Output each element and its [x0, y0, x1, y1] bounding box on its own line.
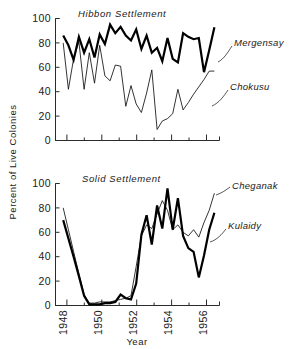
- x-tick-labels: 1948 1950 1952 1954 1956: [57, 310, 209, 335]
- top-ytick-20: 20: [39, 110, 51, 122]
- series-label-mergensay: Mergensay: [234, 37, 285, 48]
- top-ytick-0: 0: [45, 134, 51, 146]
- xtick-1954: 1954: [162, 310, 174, 335]
- series-line-cheganak: [63, 193, 214, 303]
- series-line-kulaidy: [63, 188, 214, 304]
- top-panel-title: Hibbon Settlement: [78, 8, 166, 19]
- bottom-panel-y-axis: [56, 184, 60, 306]
- bottom-ytick-20: 20: [39, 275, 51, 287]
- bottom-ytick-100: 100: [32, 177, 51, 189]
- figure-container: 0 20 40 60 80 100 Hibbon Settlement Merg…: [0, 0, 289, 349]
- bottom-panel-x-axis: [56, 302, 220, 306]
- cheganak-leader-line: [216, 187, 230, 195]
- top-panel-x-axis: [56, 137, 220, 141]
- series-label-kulaidy: Kulaidy: [228, 220, 262, 231]
- bottom-panel: 0 20 40 60 80 100 Solid Settlement Chega…: [32, 173, 278, 347]
- bottom-panel-y-ticks: [56, 184, 60, 306]
- chokusu-leader-line: [212, 90, 228, 106]
- series-label-cheganak: Cheganak: [232, 180, 279, 191]
- top-panel: 0 20 40 60 80 100 Hibbon Settlement Merg…: [32, 8, 284, 146]
- series-label-chokusu: Chokusu: [230, 81, 270, 92]
- x-axis-title: Year: [126, 336, 147, 347]
- series-line-chokusu: [63, 42, 214, 130]
- colony-survival-figure: 0 20 40 60 80 100 Hibbon Settlement Merg…: [0, 0, 289, 349]
- top-ytick-60: 60: [39, 61, 51, 73]
- top-panel-y-axis: [56, 19, 60, 141]
- kulaidy-leader-line: [210, 229, 226, 242]
- series-line-mergensay: [63, 25, 214, 73]
- top-ytick-40: 40: [39, 85, 51, 97]
- xtick-1948: 1948: [57, 310, 69, 335]
- bottom-ytick-60: 60: [39, 226, 51, 238]
- xtick-1952: 1952: [127, 310, 139, 335]
- bottom-panel-y-tick-labels: 0 20 40 60 80 100: [32, 177, 51, 311]
- xtick-1950: 1950: [92, 310, 104, 335]
- top-panel-x-ticks: [67, 135, 207, 141]
- top-ytick-100: 100: [32, 12, 51, 24]
- bottom-panel-title: Solid Settlement: [82, 173, 161, 184]
- bottom-ytick-40: 40: [39, 250, 51, 262]
- top-panel-y-ticks: [56, 19, 60, 141]
- xtick-1956: 1956: [197, 310, 209, 335]
- y-axis-title: Percent of Live Colonies: [7, 105, 18, 220]
- bottom-ytick-0: 0: [45, 299, 51, 311]
- bottom-ytick-80: 80: [39, 202, 51, 214]
- top-panel-y-tick-labels: 0 20 40 60 80 100: [32, 12, 51, 146]
- mergensay-leader-line: [218, 46, 232, 62]
- top-ytick-80: 80: [39, 37, 51, 49]
